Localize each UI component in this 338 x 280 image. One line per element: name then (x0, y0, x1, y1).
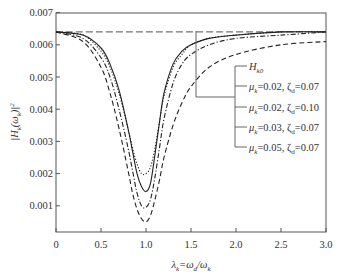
x-axis-title: λk=ωd/ωk (170, 259, 211, 273)
y-tick-label: 0.002 (29, 168, 53, 179)
x-tick-label: 2.0 (229, 239, 242, 250)
legend: Hk0 μk=0.02, ζd=0.07 μk=0.02, ζd=0.10 μk… (248, 61, 319, 156)
legend-item-4: μk=0.05, ζd=0.07 (248, 142, 319, 156)
x-tick-label: 3.0 (319, 239, 332, 250)
x-tick-label: 1.0 (139, 239, 152, 250)
legend-item-2: μk=0.02, ζd=0.10 (248, 102, 319, 116)
legend-item-1: μk=0.02, ζd=0.07 (248, 81, 319, 95)
y-tick-label: 0.007 (29, 7, 53, 18)
x-tick-label: 1.5 (184, 239, 197, 250)
y-tick-label: 0.006 (29, 39, 53, 50)
y-tick-label: 0.004 (29, 104, 53, 115)
x-tick-label: 0 (53, 239, 58, 250)
x-tick-label: 2.5 (274, 239, 287, 250)
legend-bracket (196, 31, 247, 147)
legend-item-3: μk=0.03, ζd=0.07 (248, 122, 319, 136)
legend-item-hk0: Hk0 (248, 61, 264, 75)
y-tick-label: 0.005 (29, 72, 53, 83)
chart: 0.0010.0020.0030.0040.0050.0060.007 00.5… (0, 0, 338, 280)
x-tick-label: 0.5 (94, 239, 107, 250)
y-axis-title: |Hk(ωk)|2 (8, 103, 23, 141)
y-tick-label: 0.003 (29, 136, 53, 147)
y-axis: 0.0010.0020.0030.0040.0050.0060.007 (29, 7, 60, 211)
y-tick-label: 0.001 (29, 200, 53, 211)
x-axis: 00.51.01.52.02.53.0 (53, 228, 332, 250)
